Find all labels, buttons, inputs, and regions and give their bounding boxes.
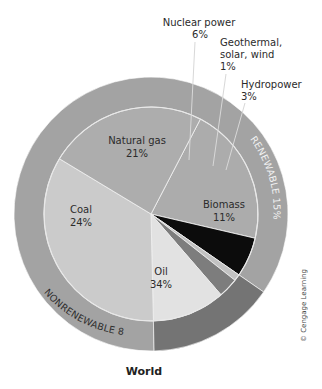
label-biomass-value: 11% — [213, 212, 235, 223]
label-biomass: Biomass — [203, 199, 245, 210]
pie-chart: Natural gas 21% Coal 24% Oil 34% Biomass… — [0, 0, 322, 389]
label-geothermal-line1: Geothermal, — [220, 37, 282, 48]
label-geothermal-line2: solar, wind — [220, 49, 274, 60]
label-coal-value: 24% — [70, 217, 92, 228]
label-natural-gas-value: 21% — [126, 148, 148, 159]
label-coal: Coal — [70, 204, 92, 215]
chart-title: World — [126, 365, 162, 378]
label-nuclear: Nuclear power — [163, 17, 236, 28]
label-natural-gas: Natural gas — [108, 135, 166, 146]
label-oil: Oil — [154, 266, 167, 277]
copyright-note: © Cengage Learning — [300, 269, 308, 342]
label-hydropower-value: 3% — [241, 91, 257, 102]
label-hydropower: Hydropower — [241, 79, 303, 90]
label-oil-value: 34% — [150, 279, 172, 290]
label-geothermal-value: 1% — [220, 61, 236, 72]
label-nuclear-value: 6% — [192, 29, 208, 40]
